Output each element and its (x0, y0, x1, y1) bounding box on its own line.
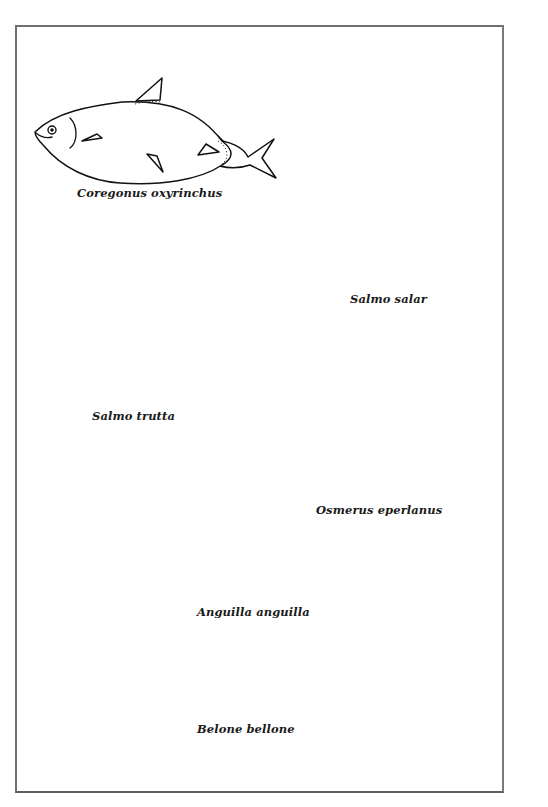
species-label-belone: Belone bellone (197, 722, 295, 736)
fish-illustrations (0, 0, 548, 807)
species-label-salmo-trutta: Salmo trutta (92, 409, 175, 423)
species-label-anguilla: Anguilla anguilla (197, 605, 310, 619)
species-label-coregonus: Coregonus oxyrinchus (77, 186, 222, 200)
coregonus-illustration (35, 78, 276, 184)
species-label-osmerus: Osmerus eperlanus (316, 503, 442, 517)
species-label-salmo-salar: Salmo salar (350, 292, 427, 306)
